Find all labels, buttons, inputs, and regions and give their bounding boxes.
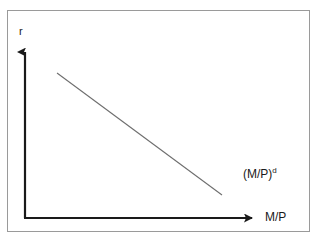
plot-canvas xyxy=(0,0,316,239)
figure-root: r M/P (M/P)d xyxy=(0,0,316,239)
x-axis-label: M/P xyxy=(265,211,286,223)
curve-label-superscript: d xyxy=(272,166,276,175)
y-axis-label: r xyxy=(19,26,23,37)
money-demand-curve-label: (M/P)d xyxy=(243,168,277,180)
money-demand-curve xyxy=(57,73,222,195)
curve-label-base: (M/P) xyxy=(243,167,272,181)
